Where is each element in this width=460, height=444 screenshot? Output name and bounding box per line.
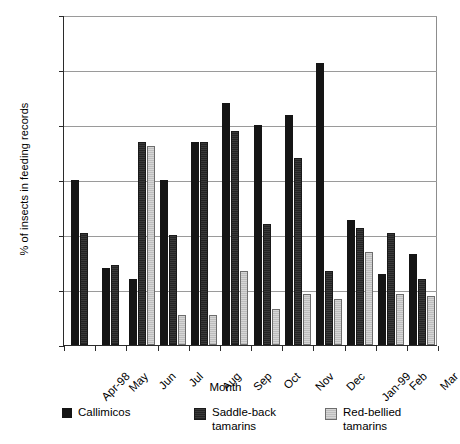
bar bbox=[418, 279, 426, 345]
bar-group bbox=[376, 16, 407, 345]
bar bbox=[272, 309, 280, 345]
plot-area: 0102030405060Apr-98MayJunJulAugSepOctNov… bbox=[63, 16, 437, 346]
y-axis-title: % of insects in feeding records bbox=[18, 59, 30, 299]
bar bbox=[160, 180, 168, 345]
x-tick-mark bbox=[438, 346, 439, 351]
chart-legend: Callimicos Saddle-back tamarins Red-bell… bbox=[0, 406, 451, 444]
bar bbox=[427, 296, 435, 346]
bar bbox=[409, 254, 417, 345]
bar bbox=[71, 180, 79, 345]
bar bbox=[347, 220, 355, 345]
x-axis-title: Month bbox=[0, 381, 451, 393]
bar bbox=[254, 125, 262, 345]
bar bbox=[231, 131, 239, 346]
bar bbox=[240, 271, 248, 345]
bar bbox=[365, 252, 373, 346]
bar bbox=[222, 103, 230, 345]
bar-group bbox=[95, 16, 126, 345]
bar bbox=[356, 228, 364, 345]
x-tick-mark bbox=[313, 346, 314, 351]
x-tick-mark bbox=[407, 346, 408, 351]
bar-group bbox=[282, 16, 313, 345]
bar-group bbox=[64, 16, 95, 345]
x-tick-mark bbox=[95, 346, 96, 351]
legend-item-red-bellied-tamarins: Red-bellied tamarins bbox=[325, 406, 401, 433]
legend-swatch-saddle-back-tamarins bbox=[194, 408, 206, 420]
bar bbox=[147, 146, 155, 345]
bar bbox=[303, 294, 311, 345]
legend-label-saddle-back-tamarins: Saddle-back tamarins bbox=[212, 406, 276, 433]
bar bbox=[325, 271, 333, 345]
bar bbox=[316, 63, 324, 345]
bar bbox=[387, 233, 395, 345]
x-tick-mark bbox=[282, 346, 283, 351]
bar bbox=[80, 233, 88, 345]
bar bbox=[138, 142, 146, 346]
legend-item-callimicos: Callimicos bbox=[62, 406, 130, 420]
bar-group bbox=[251, 16, 282, 345]
bar-group bbox=[126, 16, 157, 345]
legend-label-callimicos: Callimicos bbox=[78, 406, 130, 420]
bar bbox=[294, 158, 302, 345]
bar-group bbox=[313, 16, 344, 345]
bar bbox=[178, 315, 186, 345]
bar bbox=[334, 299, 342, 345]
legend-swatch-callimicos bbox=[62, 408, 72, 418]
bar bbox=[396, 294, 404, 345]
x-tick-mark bbox=[126, 346, 127, 351]
bar bbox=[102, 268, 110, 345]
bar bbox=[263, 224, 271, 345]
x-tick-mark bbox=[64, 346, 65, 351]
x-tick-mark bbox=[251, 346, 252, 351]
x-tick-mark bbox=[220, 346, 221, 351]
bar-group bbox=[407, 16, 438, 345]
x-tick-mark bbox=[189, 346, 190, 351]
bar-group bbox=[158, 16, 189, 345]
x-tick-mark bbox=[376, 346, 377, 351]
bar bbox=[200, 142, 208, 346]
legend-label-red-bellied-tamarins: Red-bellied tamarins bbox=[343, 406, 401, 433]
bar bbox=[209, 315, 217, 345]
bar-group bbox=[220, 16, 251, 345]
bar bbox=[285, 115, 293, 345]
bar bbox=[111, 265, 119, 345]
bar-group bbox=[189, 16, 220, 345]
bar bbox=[191, 142, 199, 346]
bar-group bbox=[345, 16, 376, 345]
bar bbox=[129, 279, 137, 345]
bar bbox=[169, 235, 177, 345]
legend-item-saddle-back-tamarins: Saddle-back tamarins bbox=[194, 406, 276, 433]
bar bbox=[378, 274, 386, 346]
x-tick-mark bbox=[158, 346, 159, 351]
x-tick-mark bbox=[345, 346, 346, 351]
legend-swatch-red-bellied-tamarins bbox=[325, 408, 337, 420]
